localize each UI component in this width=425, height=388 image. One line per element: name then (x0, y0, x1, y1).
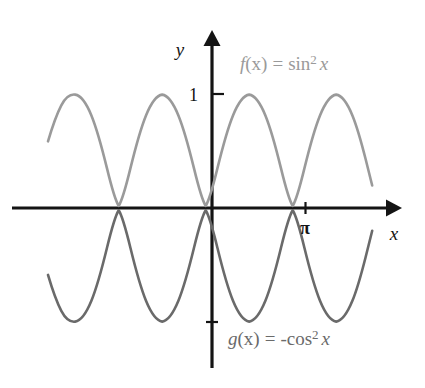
x-axis-arrow-icon (386, 200, 402, 217)
function-label-f-exponent: 2 (310, 52, 317, 67)
function-label-f-variable: x (319, 53, 329, 74)
y-axis-arrow-icon (204, 30, 221, 46)
x-tick-label-pi: π (300, 218, 310, 238)
function-label-g-variable: x (321, 328, 331, 349)
figure-container: y x 1 π f(x)=sin2x g(x)=-cos2x (0, 0, 425, 388)
function-label-g-name: g (228, 328, 238, 349)
function-label-f-body: sin (288, 53, 311, 74)
function-label-g-equals: = (265, 328, 276, 349)
function-label-f-arg: (x) (245, 53, 267, 75)
curve-g-neg-cos-squared (48, 210, 372, 321)
function-label-f: f(x)=sin2x (240, 52, 329, 75)
plot-svg: y x 1 π f(x)=sin2x g(x)=-cos2x (0, 0, 425, 388)
y-axis-label: y (174, 39, 185, 60)
function-label-g-exponent: 2 (312, 327, 319, 342)
curve-f-sin-squared (48, 94, 372, 205)
function-label-g-body: -cos (280, 328, 312, 349)
x-axis-label: x (389, 223, 399, 244)
function-label-g-arg: (x) (238, 328, 260, 350)
function-label-g: g(x)=-cos2x (228, 327, 331, 350)
function-label-f-equals: = (272, 53, 283, 74)
y-tick-label-1: 1 (189, 85, 198, 105)
